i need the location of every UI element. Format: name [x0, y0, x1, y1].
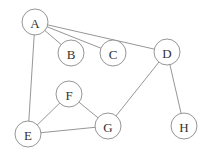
nodes-layer: ABCDFEGH [15, 9, 197, 147]
node-a: A [22, 9, 48, 35]
node-f: F [56, 81, 82, 107]
edge-a-e [28, 22, 35, 134]
node-e: E [15, 121, 41, 147]
node-b: B [58, 40, 84, 66]
node-label: A [30, 16, 40, 31]
node-label: G [103, 120, 112, 135]
node-h: H [171, 113, 197, 139]
node-c: C [100, 40, 126, 66]
node-label: E [24, 128, 32, 143]
node-label: B [67, 47, 76, 62]
node-label: D [162, 46, 171, 61]
node-label: C [109, 47, 118, 62]
node-label: F [65, 88, 72, 103]
node-g: G [95, 113, 121, 139]
node-label: H [179, 120, 188, 135]
node-d: D [154, 39, 180, 65]
graph-diagram: ABCDFEGH [0, 0, 212, 158]
